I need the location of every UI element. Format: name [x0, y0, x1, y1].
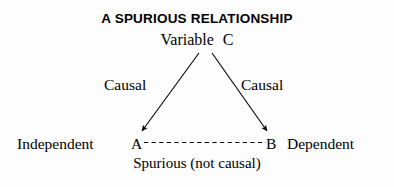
edge-label-causal-right: Causal	[241, 77, 283, 93]
node-a-label: A	[131, 136, 142, 152]
node-b-label: B	[266, 136, 276, 152]
edge-label-spurious: Spurious (not causal)	[0, 156, 394, 171]
label-independent: Independent	[17, 136, 94, 152]
label-dependent: Dependent	[287, 136, 354, 152]
edge-label-causal-left: Causal	[104, 77, 146, 93]
spurious-relationship-figure: A SPURIOUS RELATIONSHIP VariableC Causal…	[0, 0, 394, 187]
arrow-c-to-a	[142, 53, 199, 131]
